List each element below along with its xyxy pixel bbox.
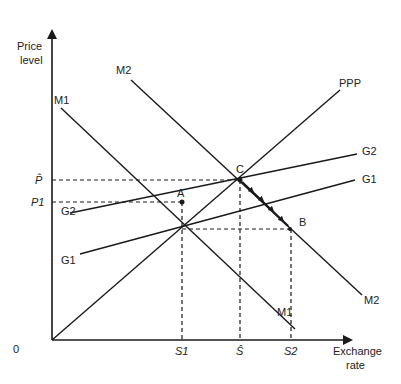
ppp-line	[52, 90, 340, 340]
g1-right-label: G1	[362, 173, 377, 185]
point-b-marker	[288, 227, 292, 231]
x-axis-label-line2: rate	[346, 359, 365, 371]
m1-bottom-label: M1	[277, 306, 292, 318]
exchange-rate-diagram: Price level Exchange rate 0 PPP M1 M1 M2…	[0, 0, 401, 384]
adj-arrow-4	[274, 212, 282, 220]
g1-line	[80, 180, 355, 254]
g2-left-label: G2	[61, 205, 76, 217]
point-a-label: A	[177, 187, 185, 199]
g2-line	[70, 154, 357, 213]
point-c-label: C	[236, 163, 244, 175]
guide-lines	[52, 180, 291, 340]
y-axis-label-line1: Price	[17, 40, 42, 52]
adj-arrow-1	[244, 184, 252, 191]
origin-label: 0	[13, 343, 19, 355]
equilibrium-points: A C B	[177, 163, 306, 231]
point-c-marker	[238, 178, 243, 183]
y-axis-label-line2: level	[20, 54, 43, 66]
point-b-label: B	[299, 216, 306, 228]
g1-left-label: G1	[61, 254, 76, 266]
s-hat-label: Ŝ	[236, 345, 244, 357]
curves	[52, 80, 362, 340]
m1-line	[61, 108, 295, 329]
point-a-marker	[180, 200, 185, 205]
s2-label: S2	[284, 345, 297, 357]
m2-bottom-label: M2	[364, 294, 379, 306]
g2-right-label: G2	[362, 145, 377, 157]
m1-top-label: M1	[54, 94, 69, 106]
m2-top-label: M2	[116, 64, 131, 76]
ppp-label: PPP	[339, 77, 361, 89]
s1-label: S1	[175, 345, 188, 357]
x-axis-label-line1: Exchange	[333, 345, 382, 357]
curve-labels: PPP M1 M1 M2 M2 G2 G2 G1 G1	[54, 64, 379, 318]
p1-label: P1	[31, 196, 44, 208]
p-hat-label: P̂	[35, 173, 43, 186]
